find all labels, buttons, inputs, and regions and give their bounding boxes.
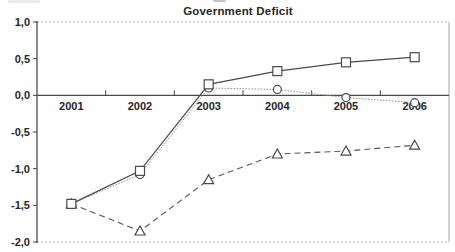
square-marker <box>342 58 351 67</box>
chart-canvas: 1,00,50,0-0,5-1,0-1,5-2,0200120022003200… <box>0 0 455 252</box>
y-tick-label: -0,5 <box>11 126 30 138</box>
square-series-line <box>71 57 414 204</box>
x-category-label: 2003 <box>196 100 220 112</box>
chart-title: Government Deficit <box>183 5 293 17</box>
y-tick-label: -1,5 <box>11 199 30 211</box>
series-layer <box>66 53 419 235</box>
series-circle <box>67 84 418 208</box>
circle-marker <box>411 99 419 107</box>
x-category-label: 2002 <box>128 100 152 112</box>
y-tick-label: 0,0 <box>15 89 30 101</box>
y-tick-label: -2,0 <box>11 236 30 248</box>
triangle-marker <box>272 149 282 158</box>
x-category-label: 2001 <box>59 100 83 112</box>
y-tick-label: 0,5 <box>15 53 30 65</box>
triangle-series-line <box>71 145 414 231</box>
square-marker <box>273 67 282 76</box>
triangle-marker <box>410 140 420 149</box>
triangle-marker <box>204 175 214 184</box>
square-marker <box>67 199 76 208</box>
square-marker <box>204 80 213 89</box>
y-tick-label: -1,0 <box>11 163 30 175</box>
x-category-label: 2005 <box>334 100 358 112</box>
triangle-marker <box>135 226 145 235</box>
circle-series-line <box>71 88 414 204</box>
circle-marker <box>342 94 350 102</box>
square-marker <box>136 166 145 175</box>
series-triangle <box>66 140 419 235</box>
circle-marker <box>273 85 281 93</box>
axes-layer: 1,00,50,0-0,5-1,0-1,5-2,0200120022003200… <box>11 16 449 248</box>
square-marker <box>410 53 419 62</box>
series-square <box>67 53 419 209</box>
chart-container: 1,00,50,0-0,5-1,0-1,5-2,0200120022003200… <box>0 0 455 252</box>
x-category-label: 2004 <box>265 100 290 112</box>
y-tick-label: 1,0 <box>15 16 30 28</box>
